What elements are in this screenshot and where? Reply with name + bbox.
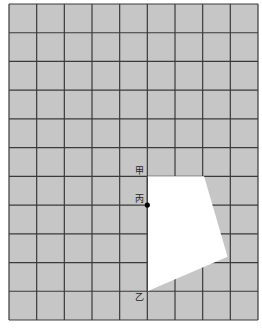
point-label: 丙 xyxy=(135,194,144,204)
grid-background xyxy=(9,4,258,320)
point-label: 甲 xyxy=(135,166,144,176)
grid-figure: 甲丙乙 xyxy=(0,0,262,330)
point-label: 乙 xyxy=(135,292,144,302)
point-dot xyxy=(145,202,150,207)
